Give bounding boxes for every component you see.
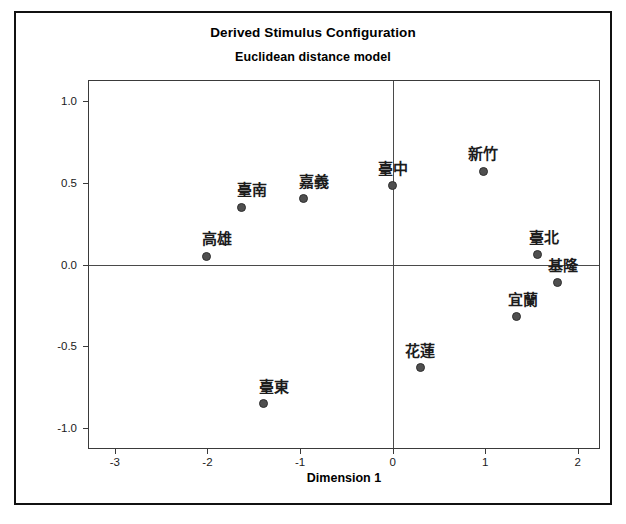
x-tick-label: -1 bbox=[295, 456, 305, 468]
reference-line-x-zero bbox=[393, 81, 394, 448]
y-tick-label: 0.5 bbox=[61, 177, 77, 189]
x-tick-mark bbox=[485, 448, 486, 454]
y-tick-label: -1.0 bbox=[57, 422, 77, 434]
x-tick-mark bbox=[115, 448, 116, 454]
x-tick-label: 1 bbox=[482, 456, 488, 468]
y-tick-mark bbox=[83, 346, 89, 347]
y-tick-mark bbox=[83, 101, 89, 102]
data-point[interactable] bbox=[259, 399, 268, 408]
x-axis-title: Dimension 1 bbox=[88, 471, 600, 485]
x-tick-label: -3 bbox=[110, 456, 120, 468]
data-point[interactable] bbox=[237, 203, 246, 212]
data-point[interactable] bbox=[553, 278, 562, 287]
x-tick-label: 2 bbox=[575, 456, 581, 468]
data-point-label: 臺南 bbox=[237, 178, 267, 199]
data-point-label: 嘉義 bbox=[299, 170, 329, 191]
data-point-label: 臺北 bbox=[529, 226, 559, 247]
title-block: Derived Stimulus Configuration Euclidean… bbox=[16, 13, 610, 64]
data-point-label: 高雄 bbox=[202, 227, 232, 248]
data-point-label: 基隆 bbox=[548, 254, 578, 275]
data-point[interactable] bbox=[299, 194, 308, 203]
data-point-label: 臺中 bbox=[378, 157, 408, 178]
y-tick-mark bbox=[83, 183, 89, 184]
data-point[interactable] bbox=[202, 252, 211, 261]
chart-title: Derived Stimulus Configuration bbox=[16, 25, 610, 40]
data-point[interactable] bbox=[512, 312, 521, 321]
data-point[interactable] bbox=[479, 167, 488, 176]
data-point-label: 臺東 bbox=[259, 375, 289, 396]
y-tick-mark bbox=[83, 428, 89, 429]
x-tick-mark bbox=[578, 448, 579, 454]
data-point-label: 新竹 bbox=[468, 142, 498, 163]
reference-line-y-zero bbox=[89, 265, 599, 266]
x-tick-label: 0 bbox=[389, 456, 395, 468]
y-tick-mark bbox=[83, 265, 89, 266]
x-tick-mark bbox=[207, 448, 208, 454]
data-point[interactable] bbox=[416, 363, 425, 372]
chart-figure: Derived Stimulus Configuration Euclidean… bbox=[14, 11, 612, 505]
x-tick-mark bbox=[393, 448, 394, 454]
data-point-label: 宜蘭 bbox=[508, 288, 538, 309]
data-point[interactable] bbox=[533, 250, 542, 259]
y-tick-label: -0.5 bbox=[57, 340, 77, 352]
data-point[interactable] bbox=[388, 181, 397, 190]
plot-area: -3-2-1012 1.00.50.0-0.5-1.0 臺中新竹臺南嘉義高雄臺北… bbox=[88, 80, 600, 449]
x-tick-mark bbox=[300, 448, 301, 454]
y-tick-label: 0.0 bbox=[61, 259, 77, 271]
y-tick-label: 1.0 bbox=[61, 95, 77, 107]
data-point-label: 花蓮 bbox=[405, 339, 435, 360]
x-tick-label: -2 bbox=[202, 456, 212, 468]
chart-subtitle: Euclidean distance model bbox=[16, 50, 610, 64]
